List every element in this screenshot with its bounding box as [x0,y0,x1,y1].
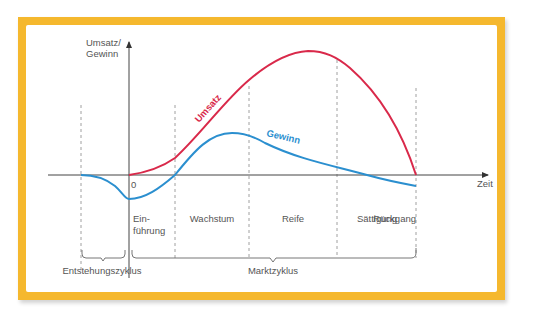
development-cycle-brace [82,250,125,261]
y-axis-label-line1: Umsatz/ [86,37,121,48]
phase-decline: Rückgang [373,213,416,224]
product-lifecycle-diagram: Umsatz Gewinn Umsatz/ Gewinn Zeit 0 Ein-… [0,0,535,316]
y-axis-label-line2: Gewinn [86,48,118,59]
x-axis-label: Zeit [477,178,493,189]
phase-introduction-line1: Ein- [133,213,150,224]
development-cycle-label: Entstehungszyklus [62,265,141,276]
phase-growth: Wachstum [190,213,235,224]
gewinn-label: Gewinn [266,127,302,145]
phase-maturity: Reife [282,213,304,224]
umsatz-label: Umsatz [192,92,223,125]
umsatz-curve [129,51,416,175]
origin-label: 0 [131,179,136,190]
phase-dividers [81,60,416,272]
market-cycle-label: Marktzyklus [248,265,298,276]
phase-introduction-line2: führung [133,225,165,236]
